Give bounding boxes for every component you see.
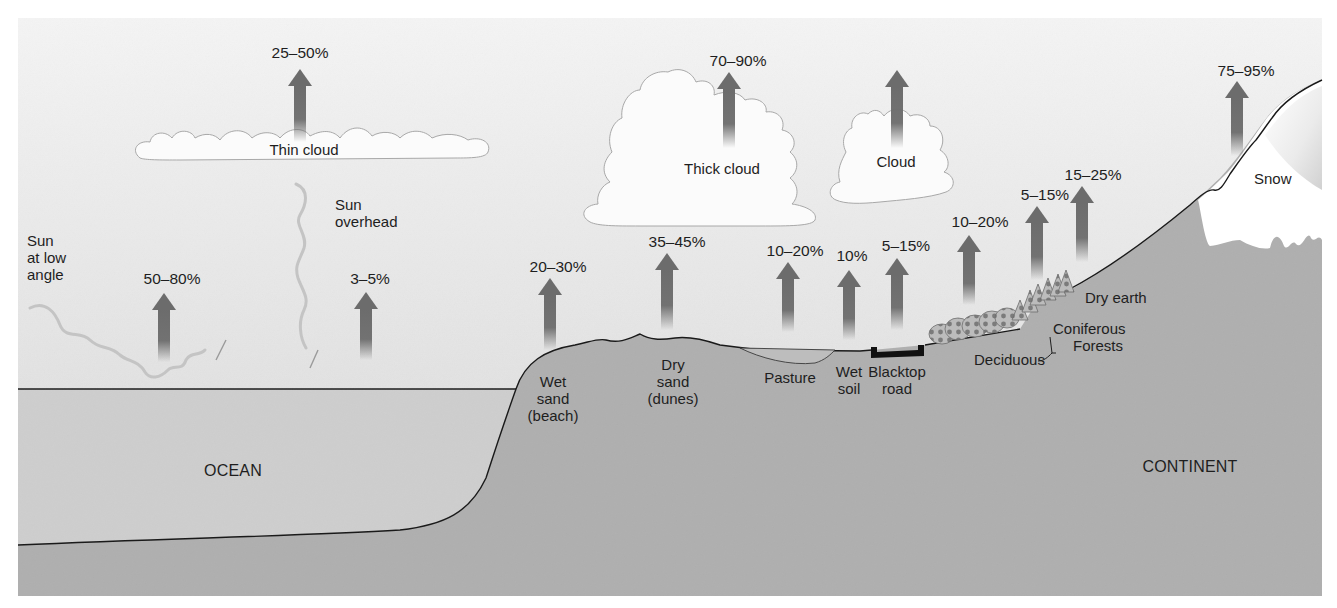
wet-soil-label: Wetsoil xyxy=(836,363,862,397)
albedo-thick-cloud: 70–90% xyxy=(710,52,767,69)
ocean-label: OCEAN xyxy=(204,462,262,479)
albedo-wet-sand: 20–30% xyxy=(530,258,587,275)
albedo-dry-earth: 15–25% xyxy=(1065,166,1122,183)
dry-earth-label: Dry earth xyxy=(1085,289,1147,306)
albedo-dry-sand: 35–45% xyxy=(649,233,706,250)
albedo-blacktop-road: 5–15% xyxy=(882,237,930,254)
snow-label: Snow xyxy=(1254,170,1292,187)
forests-bracket-icon xyxy=(1036,333,1060,363)
thick-cloud-label: Thick cloud xyxy=(684,160,760,177)
albedo-coniferous: 5–15% xyxy=(1021,186,1069,203)
pasture-label: Pasture xyxy=(764,369,816,386)
continent-label: CONTINENT xyxy=(1142,458,1237,475)
sun-low-angle-label: Sunat lowangle xyxy=(27,232,66,283)
albedo-pasture: 10–20% xyxy=(767,242,824,259)
cloud-label: Cloud xyxy=(876,153,915,170)
albedo-sun-overhead: 3–5% xyxy=(350,270,390,287)
deciduous-label: Deciduous xyxy=(974,351,1045,368)
thin-cloud-label: Thin cloud xyxy=(269,141,338,158)
wet-sand-label: Wetsand(beach) xyxy=(528,373,579,424)
sun-overhead-label: Sunoverhead xyxy=(335,196,398,230)
forests-label: ConiferousForests xyxy=(1053,320,1126,354)
dry-sand-label: Drysand(dunes) xyxy=(648,356,699,407)
blacktop-road-label: Blacktoproad xyxy=(868,363,926,397)
albedo-deciduous: 10–20% xyxy=(952,213,1009,230)
albedo-wet-soil: 10% xyxy=(836,247,867,264)
albedo-thin-cloud: 25–50% xyxy=(272,44,329,61)
albedo-snow: 75–95% xyxy=(1218,62,1275,79)
albedo-sun-low-angle: 50–80% xyxy=(144,270,201,287)
